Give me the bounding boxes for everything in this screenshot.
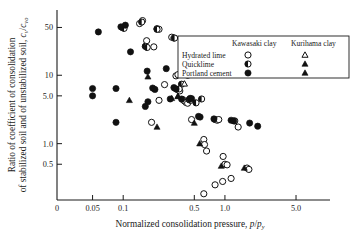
legend-row-label: Portland cement	[182, 69, 232, 78]
legend-marker-kawasaki	[245, 70, 251, 76]
data-point	[220, 178, 226, 184]
data-point	[89, 93, 95, 99]
x-axis-title-subscript: y	[261, 223, 265, 230]
legend-marker-kawasaki	[245, 61, 251, 67]
x-tick-label: 0.5	[189, 204, 199, 213]
y-axis-title: Ratio of coefficient of consolidation of…	[7, 18, 29, 193]
data-point	[228, 175, 234, 181]
data-point	[212, 182, 218, 188]
legend-header-kurihama: Kurihama clay	[291, 39, 336, 48]
data-point	[126, 97, 132, 102]
data-point	[113, 119, 119, 125]
svg-text:Normalized consolidation press: Normalized consolidation pressure, p/py	[115, 219, 264, 230]
x-axis-ticks: 0.050.10.51.05.0	[85, 195, 301, 213]
y-tick-label: 1.0	[43, 140, 53, 149]
data-point	[144, 44, 150, 50]
data-point	[201, 141, 207, 147]
legend-header-kawasaki: Kawasaki clay	[232, 39, 277, 48]
y-axis-ticks: 50105.01.00.5	[43, 23, 62, 169]
data-point	[211, 116, 217, 122]
data-point	[255, 123, 261, 129]
y-tick-label: 10	[45, 71, 53, 80]
y-axis-title-cvo-sub: vo	[22, 18, 29, 24]
data-point	[152, 86, 158, 92]
scatter-plot: 0.050.10.51.05.0 50105.01.00.5 0 Normali…	[0, 0, 357, 247]
data-point	[231, 118, 237, 124]
data-point	[122, 22, 128, 28]
x-tick-label-origin: 0	[55, 204, 59, 213]
data-point	[144, 68, 150, 74]
x-axis-title: Normalized consolidation pressure, p/py	[115, 219, 264, 230]
y-axis-title-line1: Ratio of coefficient of consolidation	[7, 37, 17, 172]
x-tick-label: 0.1	[118, 204, 128, 213]
legend: Kawasaki clay Kurihama clay Hydrated lim…	[178, 36, 349, 78]
data-point	[188, 96, 194, 102]
data-point	[145, 74, 151, 79]
data-point	[148, 119, 154, 125]
x-tick-label: 5.0	[291, 204, 301, 213]
legend-row-label: Hydrated lime	[182, 51, 226, 60]
y-tick-label: 0.5	[43, 160, 53, 169]
data-point	[139, 19, 145, 25]
data-point	[199, 96, 205, 102]
data-point	[197, 114, 203, 120]
y-tick-label: 50	[45, 23, 53, 32]
x-tick-label: 1.0	[220, 204, 230, 213]
x-axis-title-main: Normalized consolidation pressure,	[115, 219, 249, 229]
data-point	[154, 124, 160, 129]
data-point	[151, 44, 157, 50]
x-tick-label: 0.05	[85, 204, 99, 213]
data-point	[89, 85, 95, 91]
data-point	[171, 35, 177, 41]
y-axis-title-line2-main: of stabilized soil and of unstabilized s…	[18, 37, 28, 192]
data-point	[203, 148, 209, 154]
data-point	[156, 97, 162, 103]
data-point	[154, 26, 160, 32]
data-point	[235, 124, 241, 130]
data-point	[127, 49, 133, 55]
y-tick-label: 5.0	[43, 92, 53, 101]
legend-marker-kawasaki	[245, 52, 251, 58]
data-point	[163, 66, 169, 72]
data-point	[113, 85, 119, 91]
data-point	[220, 153, 226, 159]
data-point	[247, 120, 253, 126]
legend-row-label: Quicklime	[182, 60, 215, 69]
data-point	[201, 191, 207, 197]
data-point	[224, 162, 230, 168]
data-point	[142, 103, 148, 109]
data-point	[95, 29, 101, 35]
figure-root: 0.050.10.51.05.0 50105.01.00.5 0 Normali…	[0, 0, 357, 247]
y-axis-title-line2: of stabilized soil and of unstabilized s…	[18, 18, 29, 193]
data-point	[161, 82, 167, 88]
